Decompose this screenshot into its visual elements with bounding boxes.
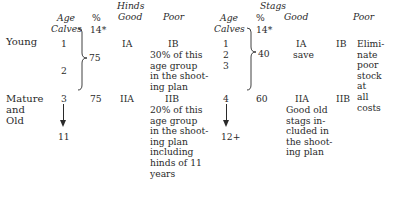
stags-mature-pct: 60 [256, 94, 268, 105]
stags-calves-header: Calves [214, 24, 245, 35]
hinds-mature-pct: 75 [90, 94, 102, 105]
hinds-poor-header: Poor [163, 12, 184, 23]
hinds-mature-age-start: 3 [61, 94, 67, 105]
hinds-age-header: Age [57, 13, 75, 24]
stags-young-age-2: 2 [223, 50, 229, 61]
stags-young-age-1: 1 [223, 39, 229, 50]
arrow-down-icon [223, 120, 229, 127]
stags-mature-good-text: Good old stags in- cluded in the shoot- … [286, 105, 332, 158]
stags-young-poor-code: IB [336, 39, 346, 50]
hinds-young-age-1: 1 [61, 39, 67, 50]
hinds-percent-header: % [92, 13, 101, 24]
stags-young-age-3: 3 [223, 61, 229, 72]
stags-young-good-text: save [293, 50, 314, 61]
hinds-good-header: Good [118, 12, 142, 23]
stags-young-brace [246, 27, 258, 91]
stags-calves-pct: 14* [256, 25, 272, 36]
stags-age-header: Age [220, 13, 238, 24]
hinds-mature-poor-text: 20% of this age group in the shoot- ing … [150, 105, 208, 179]
stags-mature-age-start: 4 [223, 94, 229, 105]
stags-mature-poor-code: IIB [336, 94, 350, 105]
stags-young-good-code: IA [296, 39, 306, 50]
hinds-young-poor-text: 30% of this age group in the shoot- ing … [150, 50, 208, 92]
hinds-young-poor-code: IB [168, 39, 178, 50]
stags-percent-header: % [256, 13, 265, 24]
hinds-young-good: IA [122, 39, 132, 50]
stags-mature-good-code: IIA [295, 94, 309, 105]
hinds-young-age-2: 2 [61, 66, 67, 77]
stags-title: Stags [260, 1, 286, 12]
stags-young-pct: 40 [258, 49, 270, 60]
row-label-mature: Mature and Old [6, 93, 43, 126]
stags-mature-age-end: 12+ [221, 132, 240, 143]
hinds-calves-pct: 14* [90, 25, 106, 36]
arrow-down-icon [60, 120, 66, 127]
hinds-young-pct: 75 [89, 53, 101, 64]
row-label-young: Young [6, 37, 37, 48]
hinds-title: Hinds [117, 1, 144, 12]
hinds-mature-poor-code: IIB [165, 94, 179, 105]
hinds-mature-good: IIA [120, 94, 134, 105]
stags-poor-header: Poor [353, 12, 374, 23]
stags-poor-text: Elimi- nate poor stock at all costs [357, 39, 384, 113]
stags-good-header: Good [284, 12, 308, 23]
hinds-mature-age-end: 11 [58, 132, 70, 143]
hinds-young-brace [77, 27, 89, 91]
